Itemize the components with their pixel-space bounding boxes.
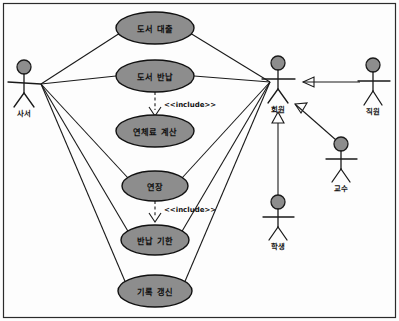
actor-label: 교수	[334, 184, 348, 193]
actor-leg-right	[278, 227, 287, 240]
use-case-loan[interactable]: 도서 대출	[116, 12, 194, 44]
actor-leg-right	[278, 89, 288, 103]
assoc-librarian-duedate[interactable]	[41, 84, 129, 233]
use-case-extend[interactable]: 연장	[122, 171, 188, 201]
actor-leg-left	[14, 93, 24, 107]
use-case-late-fee[interactable]: 연체료 계산	[116, 115, 194, 147]
actor-staff[interactable]: 직원	[358, 58, 390, 116]
use-case-return[interactable]: 도서 반납	[116, 60, 194, 92]
assoc-member-return[interactable]	[194, 76, 270, 82]
include-label-extend-duedate: <<include>>	[164, 206, 216, 214]
assoc-member-extend[interactable]	[182, 82, 270, 178]
actor-student[interactable]: 학생	[263, 195, 294, 251]
actor-head-icon	[271, 195, 285, 209]
use-case-due-date[interactable]: 반납 기한	[121, 225, 189, 255]
actor-head-icon	[271, 56, 285, 70]
actor-leg-left	[364, 91, 373, 105]
actor-leg-right	[373, 91, 382, 105]
use-case-label: 연장	[147, 182, 164, 192]
actor-leg-left	[268, 89, 278, 103]
actor-head-icon	[17, 60, 31, 74]
actor-leg-right	[24, 93, 34, 107]
gen-line-professor-member[interactable]	[295, 104, 336, 140]
actor-label: 직원	[366, 107, 380, 116]
diagram-canvas: <<include>> <<include>> 도서 대출 도서 반납 연체료 …	[0, 0, 399, 321]
use-case-label: 기록 갱신	[137, 287, 173, 297]
assoc-librarian-record[interactable]	[41, 84, 127, 286]
actor-label: 학생	[271, 242, 285, 251]
use-case-label: 연체료 계산	[133, 127, 178, 137]
actor-head-icon	[366, 58, 380, 72]
assoc-librarian-extend[interactable]	[41, 84, 128, 178]
use-case-record-update[interactable]: 기록 갱신	[118, 275, 192, 307]
use-case-diagram: <<include>> <<include>> 도서 대출 도서 반납 연체료 …	[0, 0, 399, 321]
actor-professor[interactable]: 교수	[326, 137, 357, 193]
use-case-label: 도서 반납	[137, 72, 173, 82]
use-case-label: 반납 기한	[137, 236, 173, 246]
actor-head-icon	[334, 137, 348, 151]
gen-arrow-professor-member	[295, 103, 307, 113]
use-case-label: 도서 대출	[137, 24, 173, 34]
assoc-member-record[interactable]	[183, 82, 270, 286]
include-label-return-fee: <<include>>	[164, 101, 216, 109]
actor-leg-left	[332, 169, 341, 182]
actor-leg-right	[341, 169, 350, 182]
assoc-member-loan[interactable]	[190, 33, 270, 82]
actor-label: 사서	[17, 109, 31, 118]
diagram-frame	[4, 4, 396, 318]
actor-leg-left	[269, 227, 278, 240]
actor-label: 회원	[271, 105, 285, 114]
include-relations: <<include>> <<include>>	[149, 92, 216, 222]
actor-librarian[interactable]: 사서	[8, 60, 41, 118]
